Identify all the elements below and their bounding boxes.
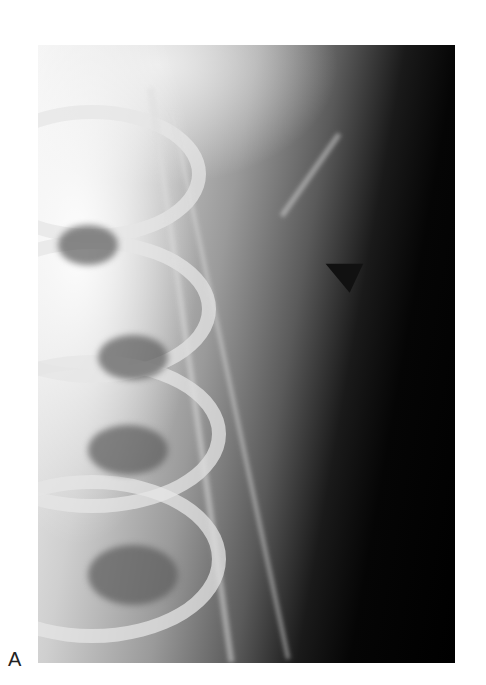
lung-space	[88, 545, 178, 605]
radiograph-image	[38, 45, 455, 663]
arrow-icon	[319, 249, 363, 292]
lung-space	[58, 225, 118, 265]
rib-shadow	[38, 105, 206, 243]
lung-space	[88, 425, 168, 475]
lung-space	[98, 335, 168, 380]
panel-label: A	[8, 648, 21, 671]
acromion	[280, 133, 341, 218]
